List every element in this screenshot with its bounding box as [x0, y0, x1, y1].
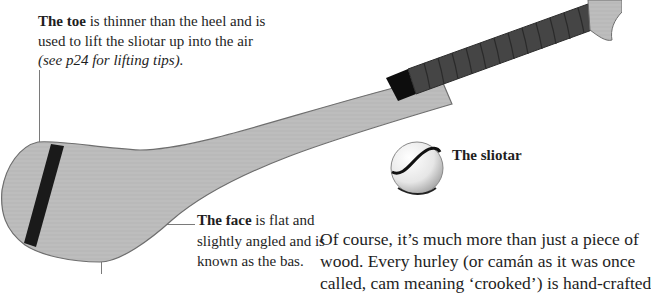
toe-caption-italic: (see p24 for lifting tips).	[38, 52, 183, 68]
hurley-grip	[408, 4, 592, 94]
toe-caption-bold: The toe	[38, 13, 86, 29]
body-line: Of course, it’s much more than just a pi…	[320, 228, 630, 250]
face-caption-bold: The face	[197, 212, 252, 228]
body-paragraph: Of course, it’s much more than just a pi…	[320, 228, 630, 294]
sliotar-label: The sliotar	[452, 147, 522, 164]
body-line: called, cam meaning ‘crooked’) is hand-c…	[320, 272, 630, 294]
face-caption: The face is flat and slightly angled and…	[197, 210, 327, 272]
sliotar-ball	[391, 142, 443, 194]
toe-caption: The toe is thinner than the heel and is …	[38, 12, 278, 71]
body-line: wood. Every hurley (or camán as it was o…	[320, 250, 630, 272]
hurley-knob	[588, 0, 622, 40]
